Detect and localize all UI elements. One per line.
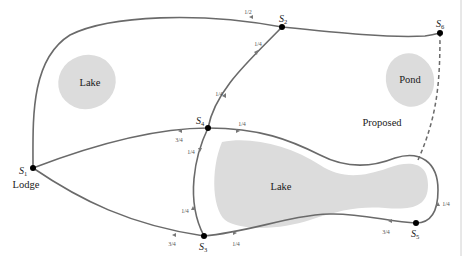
node-label-s2: S2	[279, 13, 287, 25]
node-label-s6: S6	[436, 18, 445, 30]
fraction-label: 1/4	[215, 91, 223, 97]
route-s2-s6	[282, 27, 440, 36]
node-label-s4: S4	[196, 115, 205, 127]
lodge-label: Lodge	[13, 179, 40, 190]
trail-network-diagram: 1/2 1/4 1/4 3/4 1/4 1/4 1/4 3/4 1/4 3/4 …	[0, 0, 468, 262]
arrow-icon	[249, 15, 253, 19]
node-label-s1: S1	[19, 165, 27, 177]
fraction-label: 1/4	[181, 208, 189, 214]
node-s6	[437, 30, 443, 36]
lake-center-label: Lake	[271, 181, 292, 192]
pond-label: Pond	[399, 74, 421, 85]
node-label-s3: S3	[199, 241, 207, 253]
node-s5	[413, 220, 419, 226]
proposed-label: Proposed	[362, 117, 402, 128]
fraction-label: 1/2	[244, 9, 252, 15]
lake-top-left-label: Lake	[80, 77, 101, 88]
route-s2-s4	[208, 27, 282, 128]
fraction-label: 1/4	[254, 41, 262, 47]
fraction-label: 3/4	[382, 229, 390, 235]
node-s1	[30, 165, 36, 171]
fraction-label: 1/4	[442, 201, 450, 207]
node-s3	[201, 233, 207, 239]
fraction-label: 1/4	[232, 241, 240, 247]
arrow-icon	[172, 233, 176, 237]
node-label-s5: S5	[411, 228, 419, 240]
node-s4	[205, 125, 211, 131]
route-s1-s4	[33, 128, 208, 168]
route-s1-s3	[33, 168, 204, 236]
route-s4-s3	[193, 128, 208, 236]
fraction-label: 3/4	[175, 137, 183, 143]
fraction-label: 1/4	[187, 149, 195, 155]
fraction-label: 3/4	[168, 241, 176, 247]
fraction-label: 1/4	[238, 121, 246, 127]
